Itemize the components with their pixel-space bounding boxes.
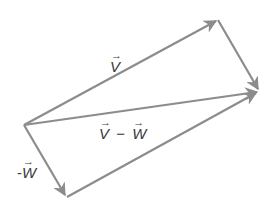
label-v-minus-w: →V − →W — [99, 126, 146, 141]
label-v: →V — [110, 59, 120, 74]
vector-v-translated-arrow — [67, 93, 256, 197]
vector-arrow-icon: → — [111, 50, 122, 61]
minus-sign: − — [116, 125, 125, 142]
vector-diagram — [0, 0, 269, 215]
vector-arrow-icon: → — [23, 156, 34, 167]
label-neg-w: -→W — [17, 165, 36, 180]
vector-neg-w-translated-arrow — [218, 20, 258, 89]
vector-arrow-icon: → — [133, 117, 144, 128]
vector-arrow-icon: → — [100, 117, 111, 128]
